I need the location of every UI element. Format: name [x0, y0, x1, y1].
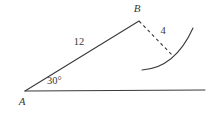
vertex-label-b: B [134, 2, 141, 14]
vertex-label-a: A [18, 95, 26, 107]
segment-ab [25, 21, 139, 91]
angle-label-a: 30° [47, 75, 62, 86]
length-label-ab: 12 [74, 36, 85, 47]
dashed-segment-b [139, 21, 172, 55]
geometry-canvas: A B 12 4 30° [0, 0, 212, 113]
swing-arc [142, 28, 193, 70]
geometry-figure: A B 12 4 30° [0, 0, 212, 113]
length-label-dashed: 4 [160, 25, 166, 36]
baseline-ray [25, 90, 205, 91]
